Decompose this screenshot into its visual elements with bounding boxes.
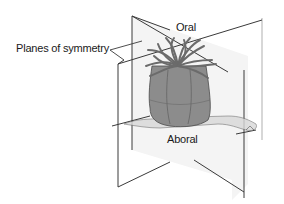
- anemone-symmetry-diagram: [0, 0, 284, 204]
- anemone-body: [149, 66, 210, 127]
- oral-label: Oral: [176, 21, 196, 33]
- planes-of-symmetry-label: Planes of symmetry: [16, 42, 109, 54]
- aboral-label: Aboral: [167, 133, 198, 145]
